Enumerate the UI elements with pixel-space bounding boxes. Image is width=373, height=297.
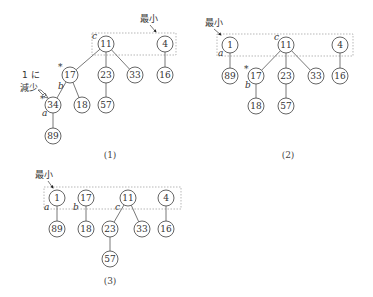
svg-text:16: 16 bbox=[159, 70, 171, 80]
svg-text:18: 18 bbox=[250, 101, 262, 111]
mark-17: * bbox=[244, 64, 249, 74]
svg-text:4: 4 bbox=[337, 40, 343, 50]
node: 4 bbox=[157, 36, 173, 52]
node: 33 bbox=[127, 67, 143, 83]
panel-2: 最小 a c * b 1 11 4 89 17 23 33 16 18 57 (… bbox=[205, 18, 353, 160]
node-label-a: a bbox=[44, 202, 49, 212]
node: 16 bbox=[332, 68, 348, 84]
svg-text:89: 89 bbox=[47, 131, 59, 141]
node: 17 bbox=[62, 67, 78, 83]
min-label: 最小 bbox=[140, 14, 158, 24]
fibonacci-heap-diagram: 最小 1 に 減少 c * b * a 11 4 17 23 33 16 34 … bbox=[0, 0, 373, 297]
node: 33 bbox=[308, 68, 324, 84]
svg-text:17: 17 bbox=[250, 71, 262, 81]
node: 4 bbox=[332, 37, 348, 53]
svg-text:18: 18 bbox=[76, 100, 88, 110]
node: 1 bbox=[222, 37, 238, 53]
node: 57 bbox=[102, 251, 118, 267]
decrease-label-line2: 減少 bbox=[20, 82, 38, 93]
svg-text:1: 1 bbox=[54, 193, 60, 203]
svg-text:18: 18 bbox=[80, 224, 92, 234]
panel-caption: (3) bbox=[104, 276, 117, 286]
svg-text:4: 4 bbox=[162, 39, 168, 49]
min-label: 最小 bbox=[205, 18, 223, 28]
node: 18 bbox=[78, 221, 94, 237]
svg-text:89: 89 bbox=[224, 71, 236, 81]
node: 34 bbox=[45, 97, 61, 113]
node: 23 bbox=[278, 68, 294, 84]
svg-text:33: 33 bbox=[310, 71, 322, 81]
svg-text:57: 57 bbox=[100, 100, 112, 110]
panel-3: 最小 a b c 1 17 11 4 89 18 23 33 16 57 (3) bbox=[35, 170, 181, 286]
panel-caption: (1) bbox=[104, 150, 117, 160]
node: 57 bbox=[98, 97, 114, 113]
node: 17 bbox=[78, 190, 94, 206]
svg-text:23: 23 bbox=[100, 70, 112, 80]
min-label: 最小 bbox=[35, 170, 53, 180]
svg-text:11: 11 bbox=[100, 39, 111, 49]
node: 4 bbox=[158, 190, 174, 206]
node-label-b: b bbox=[58, 81, 64, 91]
decrease-label-line1: 1 に bbox=[22, 70, 40, 80]
node: 89 bbox=[222, 68, 238, 84]
node: 16 bbox=[157, 67, 173, 83]
node-label-a: a bbox=[218, 48, 223, 58]
node: 18 bbox=[248, 98, 264, 114]
svg-text:16: 16 bbox=[160, 224, 172, 234]
panel-caption: (2) bbox=[282, 150, 295, 160]
node: 17 bbox=[248, 68, 264, 84]
diagram-canvas: 最小 1 に 減少 c * b * a 11 4 17 23 33 16 34 … bbox=[0, 0, 373, 297]
node: 57 bbox=[278, 98, 294, 114]
node: 16 bbox=[158, 221, 174, 237]
node-label-b: b bbox=[73, 202, 79, 212]
svg-text:23: 23 bbox=[280, 71, 292, 81]
node-label-c: c bbox=[92, 31, 97, 41]
node: 18 bbox=[74, 97, 90, 113]
svg-text:1: 1 bbox=[227, 40, 233, 50]
node: 11 bbox=[98, 36, 114, 52]
node: 89 bbox=[45, 128, 61, 144]
node: 11 bbox=[278, 37, 294, 53]
node: 33 bbox=[134, 221, 150, 237]
node: 1 bbox=[49, 190, 65, 206]
mark-17: * bbox=[58, 62, 63, 72]
node: 11 bbox=[120, 190, 136, 206]
svg-text:11: 11 bbox=[122, 193, 133, 203]
svg-text:4: 4 bbox=[163, 193, 169, 203]
svg-text:23: 23 bbox=[104, 224, 116, 234]
node-label-c: c bbox=[274, 32, 279, 42]
node: 23 bbox=[102, 221, 118, 237]
mark-34: * bbox=[40, 94, 45, 104]
svg-text:57: 57 bbox=[104, 254, 116, 264]
svg-text:57: 57 bbox=[280, 101, 292, 111]
svg-text:16: 16 bbox=[334, 71, 346, 81]
svg-text:33: 33 bbox=[136, 224, 148, 234]
svg-text:89: 89 bbox=[51, 224, 63, 234]
svg-text:11: 11 bbox=[280, 40, 291, 50]
svg-text:17: 17 bbox=[80, 193, 92, 203]
node: 89 bbox=[49, 221, 65, 237]
node-label-c: c bbox=[115, 202, 120, 212]
svg-text:34: 34 bbox=[47, 100, 59, 110]
node: 23 bbox=[98, 67, 114, 83]
svg-text:17: 17 bbox=[64, 70, 76, 80]
panel-1: 最小 1 に 減少 c * b * a 11 4 17 23 33 16 34 … bbox=[20, 14, 176, 160]
svg-text:33: 33 bbox=[129, 70, 141, 80]
